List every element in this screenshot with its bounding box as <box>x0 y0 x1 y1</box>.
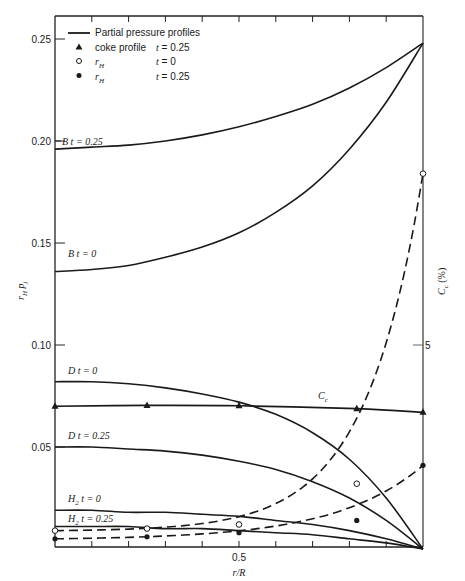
legend-triangle-icon <box>76 44 83 50</box>
x-tick-label: 0.5 <box>232 552 246 563</box>
data-curves <box>55 43 423 549</box>
y-tick-label: 0.25 <box>32 34 52 45</box>
legend-label: coke profile <box>95 42 147 53</box>
y-axis-left-title: rH pj <box>15 282 29 300</box>
y-tick-label: 0.20 <box>32 136 52 147</box>
open-circle-marker <box>144 526 150 532</box>
x-axis-title: r/R <box>233 567 246 578</box>
curve-b-t-0-25 <box>55 43 423 149</box>
open-circle-marker <box>354 481 360 487</box>
y-axis-right-title: Cc (%) <box>436 268 450 295</box>
filled-circle-marker <box>354 518 359 523</box>
legend-time: t = 0.25 <box>156 71 190 82</box>
chart-figure: 0.50.050.100.150.200.255 B t = 0.25B t =… <box>0 0 465 581</box>
y-tick-label: 0.10 <box>32 340 52 351</box>
curve-b-t-0 <box>55 43 423 271</box>
plot-frame <box>55 16 423 547</box>
y-tick-label: 0.05 <box>32 442 52 453</box>
label-d-t025: D t = 0.25 <box>67 430 110 441</box>
legend-label: rH <box>95 56 105 70</box>
label-h2-t025: H2 t = 0.25 <box>67 513 113 527</box>
open-circle-marker <box>420 171 426 177</box>
label-d-t0: D t = 0 <box>67 365 97 376</box>
legend-filled-circle-icon <box>77 73 82 78</box>
filled-circle-marker <box>52 536 57 541</box>
legend-open-circle-icon <box>77 59 82 64</box>
curve-labels: B t = 0.25B t = 0D t = 0D t = 0.25H2 t =… <box>55 136 329 527</box>
filled-circle-marker <box>144 534 149 539</box>
data-markers <box>52 171 427 542</box>
legend-label: Partial pressure profiles <box>95 27 200 38</box>
filled-circle-marker <box>420 463 425 468</box>
legend-time: t = 0.25 <box>156 42 190 53</box>
open-circle-marker <box>52 528 58 534</box>
label-cc: Cc <box>318 390 329 404</box>
y2-tick-label: 5 <box>425 340 431 351</box>
legend-time: t = 0 <box>156 56 176 67</box>
label-b-t025: B t = 0.25 <box>62 136 103 147</box>
label-h2-t0: H2 t = 0 <box>67 493 101 507</box>
label-b-t0: B t = 0 <box>68 248 96 259</box>
legend: Partial pressure profilescoke profilet =… <box>68 27 200 85</box>
legend-label: rH <box>95 71 105 85</box>
filled-circle-marker <box>236 530 241 535</box>
open-circle-marker <box>236 522 242 528</box>
y-tick-label: 0.15 <box>32 238 52 249</box>
axis-titles: rH pjCc (%)r/R <box>15 268 450 578</box>
